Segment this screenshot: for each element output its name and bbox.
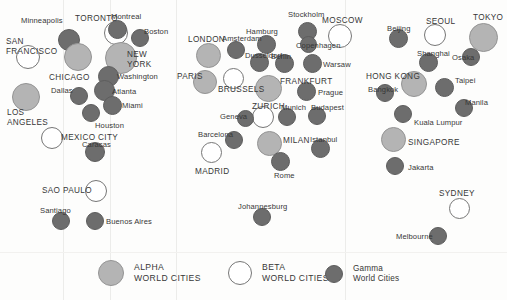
city-label-new-york: NEW YORK — [127, 50, 152, 69]
legend-beta-text: BETA WORLD CITIES — [262, 262, 329, 283]
city-node-singapore[interactable] — [381, 127, 406, 152]
city-node-houston[interactable] — [82, 104, 100, 122]
city-label-kuala-lumpur: Kuala Lumpur — [414, 119, 462, 127]
city-label-atlanta: Atlanta — [112, 88, 136, 96]
city-label-sydney: SYDNEY — [439, 190, 475, 198]
city-label-paris: PARIS — [177, 73, 203, 81]
city-label-tokyo: TOKYO — [473, 14, 503, 22]
city-label-santiago: Santiago — [40, 207, 71, 215]
city-label-shanghai: Shanghai — [417, 50, 450, 58]
legend: ALPHA WORLD CITIESBETA WORLD CITIESGamma… — [0, 254, 507, 300]
city-label-chicago: CHICAGO — [49, 74, 90, 82]
city-label-prague: Prague — [318, 89, 343, 97]
city-node-buenos-aires[interactable] — [86, 212, 104, 230]
city-label-manila: Manila — [465, 99, 488, 107]
city-node-rome[interactable] — [271, 152, 290, 171]
city-label-london: LONDON — [188, 36, 225, 44]
city-label-melbourne: Melbourne — [396, 233, 433, 241]
city-label-bangkok: Bangkok — [368, 86, 398, 94]
city-label-los-angeles: LOS ANGELES — [7, 108, 48, 127]
city-label-rome: Rome — [274, 172, 295, 180]
city-label-jakarta: Jakarta — [408, 164, 434, 172]
city-label-moscow: MOSCOW — [322, 17, 363, 25]
city-label-washington: Washington — [117, 73, 158, 81]
city-label-copenhagen: Copenhagen — [296, 42, 341, 50]
city-label-dallas: Dallas — [51, 87, 73, 95]
city-label-sao-paulo: SAO PAULO — [42, 187, 92, 195]
city-label-singapore: SINGAPORE — [408, 139, 460, 147]
city-node-sydney[interactable] — [449, 198, 470, 219]
city-node-london[interactable] — [196, 43, 221, 68]
city-label-johannesburg: Johannesburg — [238, 203, 287, 211]
world-cities-map: MinneapolisTORONTOMontrealBostonSAN FRAN… — [0, 0, 507, 300]
legend-alpha-text: ALPHA WORLD CITIES — [134, 262, 201, 283]
city-node-chicago[interactable] — [64, 43, 92, 71]
city-label-san-francisco: SAN FRANCISCO — [6, 37, 57, 56]
city-node-warsaw[interactable] — [303, 54, 322, 73]
city-label-barcelona: Barcelona — [198, 131, 233, 139]
city-label-minneapolis: Minneapolis — [21, 17, 63, 25]
city-node-miami[interactable] — [103, 96, 122, 115]
city-label-madrid: MADRID — [195, 168, 229, 176]
city-label-brussels: BRUSSELS — [218, 86, 264, 94]
legend-alpha-swatch — [98, 260, 124, 286]
legend-beta[interactable]: BETA WORLD CITIES — [228, 261, 329, 285]
city-node-jakarta[interactable] — [386, 157, 404, 175]
city-label-caracas: Caracas — [82, 141, 111, 149]
city-label-miami: Miami — [122, 102, 143, 110]
city-label-warsaw: Warsaw — [323, 61, 351, 69]
city-label-hong-kong: HONG KONG — [366, 73, 420, 81]
city-label-budapest: Budapest — [311, 104, 344, 112]
city-label-milan: MILAN — [283, 137, 310, 145]
scan-edge-line — [0, 252, 507, 253]
city-label-boston: Boston — [144, 28, 168, 36]
legend-alpha[interactable]: ALPHA WORLD CITIES — [98, 260, 201, 286]
legend-gamma-swatch — [325, 265, 343, 283]
legend-gamma[interactable]: Gamma World Cities — [325, 264, 399, 285]
city-node-amsterdam[interactable] — [227, 41, 245, 59]
city-label-beijing: Beijing — [387, 25, 411, 33]
city-label-seoul: SEOUL — [426, 18, 456, 26]
legend-gamma-text: Gamma World Cities — [353, 264, 399, 285]
city-label-montreal: Montreal — [111, 13, 141, 21]
city-label-hamburg: Hamburg — [246, 28, 278, 36]
city-label-berlin: Berlin — [271, 53, 291, 61]
city-label-munich: Munich — [281, 104, 306, 112]
city-node-madrid[interactable] — [201, 142, 222, 163]
city-node-taipei[interactable] — [435, 78, 454, 97]
city-label-geneva: Geneva — [220, 113, 247, 121]
city-label-osaka: Osaka — [452, 54, 474, 62]
city-label-houston: Houston — [95, 122, 124, 130]
city-node-tokyo[interactable] — [469, 23, 498, 52]
city-label-frankfurt: FRANKFURT — [280, 78, 333, 86]
city-label-istanbul: Istanbul — [310, 136, 337, 144]
city-label-stockholm: Stockholm — [288, 11, 324, 19]
city-node-seoul[interactable] — [424, 24, 446, 46]
city-node-mexico-city[interactable] — [41, 127, 63, 149]
city-label-taipei: Taipei — [455, 77, 475, 85]
legend-beta-swatch — [228, 261, 252, 285]
city-label-amsterdam: Amsterdam — [222, 35, 262, 43]
city-node-los-angeles[interactable] — [12, 83, 40, 111]
city-label-buenos-aires: Buenos Aires — [106, 218, 152, 226]
city-node-kuala-lumpur[interactable] — [394, 105, 412, 123]
